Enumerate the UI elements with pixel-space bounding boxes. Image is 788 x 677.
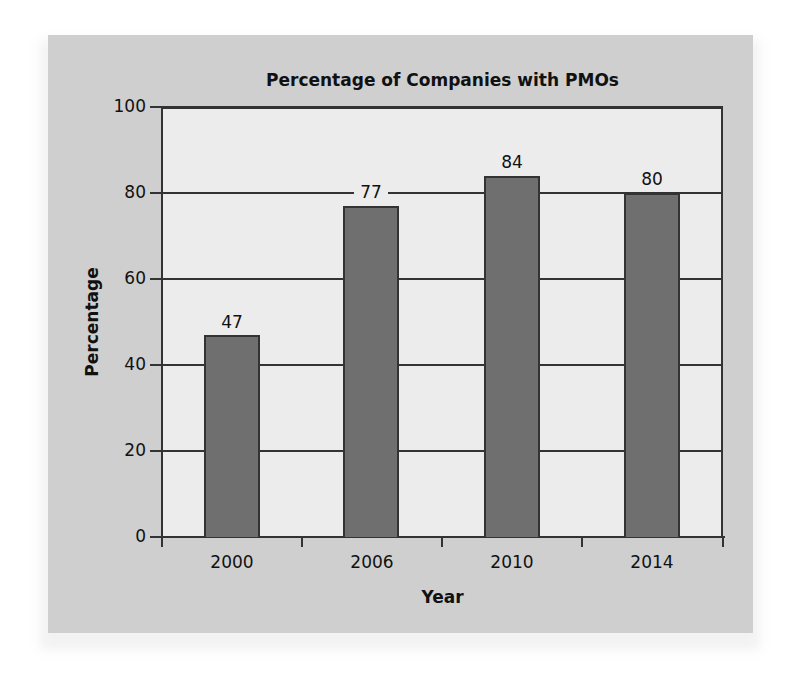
y-tick-label: 20: [86, 440, 146, 460]
x-tick-label: 2010: [442, 552, 582, 572]
bar-value-label: 77: [343, 182, 399, 202]
x-tick-label: 2000: [162, 552, 302, 572]
bar-2006: [343, 206, 399, 537]
y-axis: [161, 107, 163, 545]
x-tick: [722, 537, 724, 547]
x-tick: [301, 537, 303, 547]
x-tick: [161, 537, 163, 547]
gridline-100: [150, 106, 723, 108]
bar-2014: [624, 193, 680, 537]
bar-value-label: 80: [624, 169, 680, 189]
y-axis-label: Percentage: [82, 267, 102, 376]
y-tick-label: 100: [86, 96, 146, 116]
bar-2010: [484, 176, 540, 537]
x-axis-label: Year: [162, 587, 723, 607]
x-tick-label: 2014: [582, 552, 722, 572]
y-tick-label: 80: [86, 182, 146, 202]
x-tick: [581, 537, 583, 547]
x-tick: [441, 537, 443, 547]
bar-2000: [204, 335, 260, 537]
bar-value-label: 84: [484, 152, 540, 172]
x-tick-label: 2006: [302, 552, 442, 572]
chart-title: Percentage of Companies with PMOs: [162, 70, 723, 90]
y-tick-label: 0: [86, 526, 146, 546]
bar-value-label: 47: [204, 312, 260, 332]
